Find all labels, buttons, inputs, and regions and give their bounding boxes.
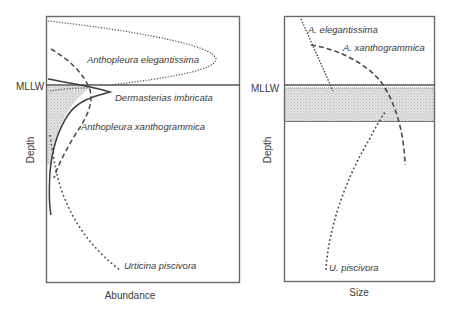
size-shaded-band	[285, 88, 435, 121]
abundance-mllw-label: MLLW	[16, 81, 45, 92]
abundance-panel: Anthopleura elegantissima Dermasterias i…	[16, 17, 240, 302]
label-urticina-piscivora: Urticina piscivora	[124, 260, 196, 271]
size-x-axis-label: Size	[349, 287, 369, 298]
curve-urticina-piscivora	[50, 135, 120, 270]
size-curve-u-piscivora	[326, 112, 385, 270]
size-panel: A. elegantissima A. xanthogrammica U. pi…	[251, 17, 435, 299]
size-label-a-elegantissima: A. elegantissima	[307, 24, 378, 35]
depth-distribution-figure: Anthopleura elegantissima Dermasterias i…	[0, 0, 449, 310]
label-anthopleura-xanthogrammica: Anthopleura xanthogrammica	[80, 121, 205, 132]
abundance-x-axis-label: Abundance	[105, 290, 156, 301]
size-label-a-xanthogrammica: A. xanthogrammica	[342, 42, 425, 53]
size-panel-frame	[285, 17, 435, 282]
label-dermasterias-imbricata: Dermasterias imbricata	[115, 92, 213, 103]
size-mllw-label: MLLW	[251, 83, 280, 94]
size-label-u-piscivora: U. piscivora	[329, 262, 379, 273]
curve-anthopleura-elegantissima	[48, 21, 216, 85]
label-anthopleura-elegantissima: Anthopleura elegantissima	[86, 54, 199, 65]
abundance-y-axis-label: Depth	[25, 137, 36, 164]
size-y-axis-label: Depth	[262, 137, 273, 164]
